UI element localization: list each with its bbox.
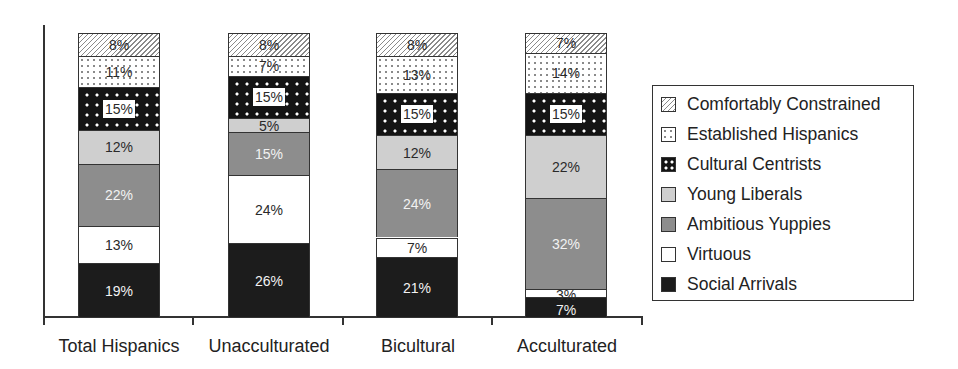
segment-cultural: 15% bbox=[525, 93, 607, 136]
legend-label: Social Arrivals bbox=[687, 274, 797, 295]
segment-value-label: 22% bbox=[552, 160, 580, 174]
legend-item-comfortably-constrained: Comfortably Constrained bbox=[661, 93, 881, 115]
segment-value-label: 24% bbox=[255, 203, 283, 217]
legend-item-ambitious-yuppies: Ambitious Yuppies bbox=[661, 213, 831, 235]
segment-virtuous: 3% bbox=[525, 289, 607, 298]
segment-value-label: 7% bbox=[556, 303, 576, 317]
segment-value-label: 7% bbox=[259, 59, 279, 73]
x-tick bbox=[43, 316, 45, 325]
segment-social: 19% bbox=[78, 263, 160, 317]
y-axis bbox=[43, 25, 45, 318]
segment-value-label: 13% bbox=[105, 238, 133, 252]
segment-value-label: 12% bbox=[105, 140, 133, 154]
bar-acculturated: 7%3%32%22%15%14%7% bbox=[525, 33, 607, 317]
white-swatch-icon bbox=[661, 247, 676, 262]
segment-established: 7% bbox=[228, 56, 310, 76]
legend-item-social-arrivals: Social Arrivals bbox=[661, 273, 797, 295]
segment-young: 5% bbox=[228, 118, 310, 132]
legend-label: Young Liberals bbox=[687, 184, 802, 205]
segment-value-label: 15% bbox=[253, 88, 285, 106]
legend-label: Established Hispanics bbox=[687, 124, 858, 145]
light-gray-swatch-icon bbox=[661, 187, 676, 202]
x-tick bbox=[342, 316, 344, 325]
segment-value-label: 15% bbox=[255, 147, 283, 161]
segment-value-label: 11% bbox=[106, 65, 133, 79]
bar-total-hispanics: 19%13%22%12%15%11%8% bbox=[78, 33, 160, 317]
segment-ambitious: 15% bbox=[228, 132, 310, 175]
segment-young: 22% bbox=[525, 135, 607, 197]
legend-item-established-hispanics: Established Hispanics bbox=[661, 123, 858, 145]
segment-value-label: 32% bbox=[552, 237, 580, 251]
segment-cultural: 15% bbox=[376, 93, 458, 136]
segment-value-label: 24% bbox=[403, 197, 431, 211]
legend-label: Comfortably Constrained bbox=[687, 94, 881, 115]
segment-value-label: 26% bbox=[255, 274, 283, 288]
segment-value-label: 21% bbox=[403, 281, 431, 295]
segment-value-label: 3% bbox=[556, 288, 576, 302]
light-dots-swatch-icon bbox=[661, 127, 676, 142]
segment-value-label: 15% bbox=[550, 105, 582, 123]
segment-ambitious: 24% bbox=[376, 169, 458, 237]
category-label-unacculturated: Unacculturated bbox=[194, 336, 344, 357]
segment-established: 14% bbox=[525, 53, 607, 93]
segment-value-label: 12% bbox=[403, 146, 431, 160]
segment-young: 12% bbox=[78, 130, 160, 164]
segment-value-label: 8% bbox=[109, 38, 129, 52]
legend-label: Ambitious Yuppies bbox=[687, 214, 831, 235]
category-label-total-hispanics: Total Hispanics bbox=[44, 336, 194, 357]
segment-social: 21% bbox=[376, 257, 458, 317]
dark-gray-swatch-icon bbox=[661, 217, 676, 232]
legend-label: Virtuous bbox=[687, 244, 751, 265]
segment-comfortably: 8% bbox=[228, 33, 310, 56]
segment-value-label: 22% bbox=[105, 188, 133, 202]
x-tick bbox=[641, 316, 643, 325]
segment-comfortably: 8% bbox=[78, 33, 160, 56]
x-tick bbox=[491, 316, 493, 325]
legend: Comfortably Constrained Established Hisp… bbox=[652, 85, 914, 301]
segment-young: 12% bbox=[376, 135, 458, 169]
segment-value-label: 7% bbox=[407, 241, 427, 255]
segment-cultural: 15% bbox=[78, 87, 160, 130]
legend-item-cultural-centrists: Cultural Centrists bbox=[661, 153, 821, 175]
legend-item-virtuous: Virtuous bbox=[661, 243, 751, 265]
segment-value-label: 15% bbox=[401, 105, 433, 123]
segment-established: 13% bbox=[376, 56, 458, 93]
segment-value-label: 13% bbox=[403, 68, 431, 82]
category-label-acculturated: Acculturated bbox=[492, 336, 642, 357]
segment-virtuous: 7% bbox=[376, 238, 458, 258]
segment-cultural: 15% bbox=[228, 76, 310, 119]
legend-item-young-liberals: Young Liberals bbox=[661, 183, 802, 205]
segment-ambitious: 22% bbox=[78, 164, 160, 226]
category-label-bicultural: Bicultural bbox=[343, 336, 493, 357]
segment-social: 26% bbox=[228, 243, 310, 317]
black-dots-swatch-icon bbox=[661, 157, 676, 172]
bar-unacculturated: 26%24%15%5%15%7%8% bbox=[228, 33, 310, 317]
segment-virtuous: 13% bbox=[78, 226, 160, 263]
segment-comfortably: 7% bbox=[525, 33, 607, 53]
segment-value-label: 15% bbox=[103, 100, 135, 118]
segment-virtuous: 24% bbox=[228, 175, 310, 243]
segment-comfortably: 8% bbox=[376, 33, 458, 56]
segment-ambitious: 32% bbox=[525, 198, 607, 289]
segment-value-label: 19% bbox=[105, 284, 133, 298]
black-swatch-icon bbox=[661, 277, 676, 292]
segment-established: 11% bbox=[78, 56, 160, 87]
segment-value-label: 8% bbox=[407, 38, 427, 52]
x-tick bbox=[192, 316, 194, 325]
segment-value-label: 5% bbox=[259, 119, 279, 133]
diagonal-hatch-swatch-icon bbox=[661, 97, 676, 112]
segment-value-label: 8% bbox=[259, 38, 279, 52]
segment-value-label: 14% bbox=[552, 66, 580, 80]
legend-label: Cultural Centrists bbox=[687, 154, 821, 175]
segment-value-label: 7% bbox=[556, 36, 576, 50]
bar-bicultural: 21%7%24%12%15%13%8% bbox=[376, 33, 458, 317]
